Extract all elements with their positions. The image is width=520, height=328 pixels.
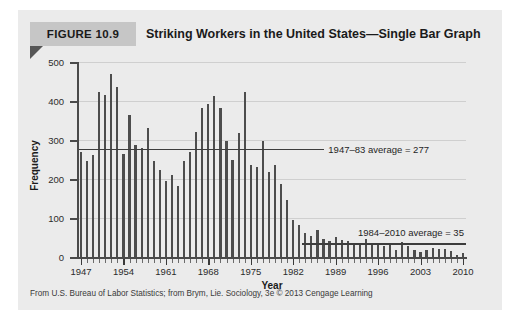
y-tick-label: 400 xyxy=(24,96,64,107)
x-tick-minor xyxy=(220,259,221,263)
x-tick-major xyxy=(251,259,252,265)
x-tick-minor xyxy=(233,259,234,263)
y-tick-label: 500 xyxy=(24,57,64,68)
gridline-400 xyxy=(78,101,466,102)
bar xyxy=(250,165,252,257)
x-tick-label: 1961 xyxy=(146,266,186,277)
gridline-500 xyxy=(78,62,466,63)
x-tick-minor xyxy=(148,259,149,263)
bar xyxy=(104,95,106,257)
x-tick-minor xyxy=(154,259,155,263)
y-tick-mark xyxy=(70,179,77,181)
bar xyxy=(280,184,282,257)
bar xyxy=(395,250,397,257)
bar xyxy=(213,96,215,257)
bar xyxy=(298,225,300,257)
x-tick-minor xyxy=(408,259,409,263)
bar xyxy=(262,141,264,257)
bar xyxy=(159,170,161,257)
x-tick-minor xyxy=(414,259,415,263)
x-tick-minor xyxy=(160,259,161,263)
average-leader-line xyxy=(302,149,324,150)
x-tick-label: 1982 xyxy=(273,266,313,277)
x-tick-minor xyxy=(427,259,428,263)
x-tick-major xyxy=(166,259,167,265)
chart-region: 1947–83 average = 2771984–2010 average =… xyxy=(18,54,502,284)
x-tick-minor xyxy=(214,259,215,263)
y-tick-label: 100 xyxy=(24,213,64,224)
x-tick-minor xyxy=(239,259,240,263)
x-tick-minor xyxy=(390,259,391,263)
x-tick-minor xyxy=(105,259,106,263)
bar xyxy=(141,148,143,257)
bar xyxy=(244,92,246,257)
bar xyxy=(359,243,361,257)
y-tick-mark xyxy=(70,218,77,220)
bar xyxy=(389,244,391,257)
x-tick-minor xyxy=(117,259,118,263)
bar xyxy=(98,92,100,257)
x-tick-minor xyxy=(317,259,318,263)
bar xyxy=(116,87,118,257)
x-tick-minor xyxy=(439,259,440,263)
x-tick-minor xyxy=(269,259,270,263)
bar xyxy=(165,181,167,257)
y-tick-mark xyxy=(70,140,77,142)
y-tick-mark xyxy=(70,257,77,259)
x-tick-minor xyxy=(136,259,137,263)
y-axis-title: Frequency xyxy=(29,126,40,206)
bar xyxy=(377,243,379,257)
bar xyxy=(425,250,427,257)
x-tick-label: 2003 xyxy=(401,266,441,277)
x-tick-minor xyxy=(324,259,325,263)
bar xyxy=(310,236,312,257)
y-tick-mark xyxy=(70,101,77,103)
bar xyxy=(177,186,179,257)
average-line xyxy=(78,149,302,150)
bar xyxy=(195,132,197,257)
y-axis-line xyxy=(77,62,79,258)
x-tick-minor xyxy=(311,259,312,263)
bar xyxy=(128,115,130,257)
bar xyxy=(292,220,294,257)
bar xyxy=(171,175,173,257)
y-tick-label: 0 xyxy=(24,252,64,263)
x-tick-minor xyxy=(93,259,94,263)
bar xyxy=(353,243,355,257)
x-tick-label: 1989 xyxy=(316,266,356,277)
x-tick-minor xyxy=(348,259,349,263)
x-tick-minor xyxy=(196,259,197,263)
x-tick-major xyxy=(421,259,422,265)
x-tick-label: 1968 xyxy=(188,266,228,277)
x-tick-minor xyxy=(402,259,403,263)
x-tick-minor xyxy=(99,259,100,263)
x-tick-minor xyxy=(263,259,264,263)
x-tick-major xyxy=(378,259,379,265)
bar xyxy=(304,233,306,257)
x-tick-minor xyxy=(245,259,246,263)
x-tick-minor xyxy=(227,259,228,263)
x-tick-minor xyxy=(178,259,179,263)
x-tick-minor xyxy=(330,259,331,263)
average-annotation-label: 1984–2010 average = 35 xyxy=(358,227,464,238)
x-tick-minor xyxy=(87,259,88,263)
x-tick-major xyxy=(208,259,209,265)
x-tick-minor xyxy=(360,259,361,263)
bar xyxy=(110,74,112,257)
x-tick-minor xyxy=(142,259,143,263)
x-tick-minor xyxy=(342,259,343,263)
x-tick-major xyxy=(123,259,124,265)
x-tick-minor xyxy=(202,259,203,263)
bar xyxy=(92,155,94,257)
x-tick-minor xyxy=(130,259,131,263)
x-tick-minor xyxy=(451,259,452,263)
x-tick-minor xyxy=(384,259,385,263)
x-tick-label: 1947 xyxy=(61,266,101,277)
x-tick-major xyxy=(81,259,82,265)
bar xyxy=(365,239,367,257)
x-tick-minor xyxy=(281,259,282,263)
x-tick-major xyxy=(336,259,337,265)
bar xyxy=(322,239,324,257)
x-tick-minor xyxy=(433,259,434,263)
plot-area: 1947–83 average = 2771984–2010 average =… xyxy=(78,62,466,257)
